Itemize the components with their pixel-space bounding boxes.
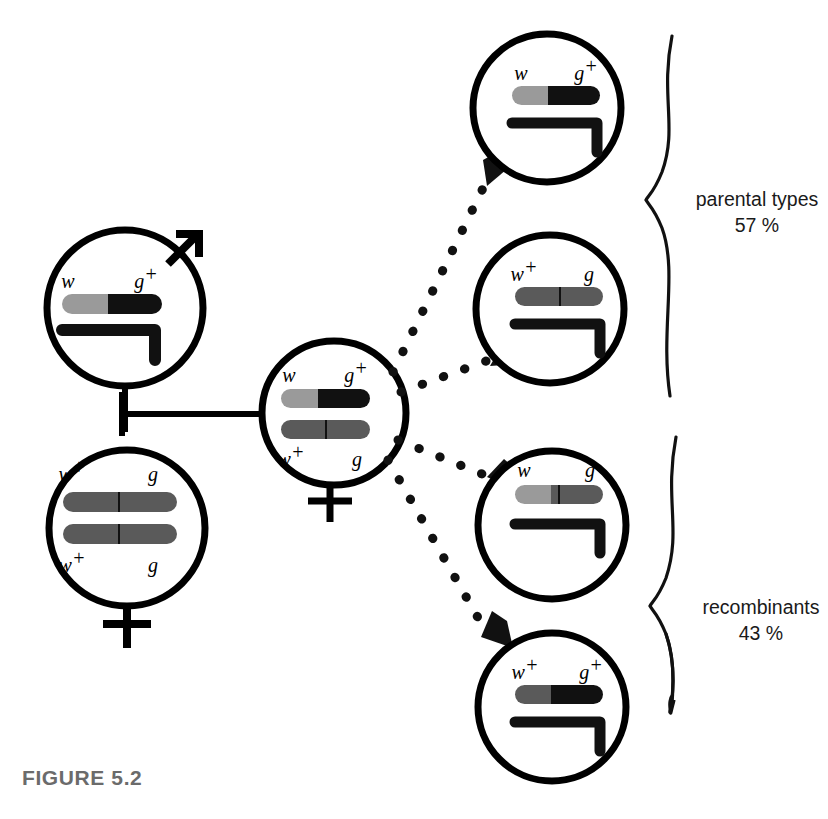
figure-canvas: w g+ w+ g	[0, 0, 828, 819]
chromosome-bar	[63, 492, 177, 512]
offspring-node-2[interactable]: w+ g	[476, 235, 624, 383]
allele-label: g	[584, 263, 594, 286]
chromosome-bar	[515, 287, 603, 306]
chromosome-bar	[515, 485, 603, 504]
parental-bracket-label: parental types	[696, 188, 819, 210]
offspring-circle	[476, 235, 624, 383]
allele-label: w	[61, 270, 75, 292]
genetics-cross-figure: w g+ w+ g	[0, 0, 828, 819]
recombinant-bracket	[650, 437, 676, 713]
offspring-node-4[interactable]: w+ g+	[478, 633, 626, 781]
chromosome-bar	[281, 420, 370, 439]
arrowhead-4	[481, 611, 513, 648]
offspring-node-1[interactable]: w g+	[473, 34, 621, 182]
allele-label: w	[517, 459, 531, 481]
chromosome-bar	[515, 685, 603, 704]
arrow-path-1	[393, 180, 487, 372]
parent-male-node[interactable]: w g+	[47, 230, 203, 386]
allele-label: g	[352, 448, 362, 471]
female-symbol-icon	[103, 604, 151, 648]
allele-label: w	[282, 364, 296, 386]
pedigree-cross-lines	[122, 388, 272, 436]
figure-caption: FIGURE 5.2	[22, 766, 142, 789]
arrow-path-2	[401, 356, 500, 392]
chromosome-bar	[63, 524, 177, 544]
chromosome-bar	[281, 389, 370, 408]
parental-bracket	[646, 36, 672, 396]
arrow-path-4	[388, 460, 485, 630]
female-symbol-icon	[308, 484, 352, 522]
parental-bracket-percent: 57 %	[735, 214, 779, 236]
recombinant-bracket-percent: 43 %	[739, 622, 783, 644]
arrow-path-3	[398, 440, 497, 480]
allele-label: g	[148, 463, 158, 486]
allele-label: w	[514, 62, 528, 84]
offspring-node-3[interactable]: w g	[478, 451, 626, 599]
parent-female-node[interactable]: w+ g w+ g	[49, 450, 205, 648]
chromosome-bar	[512, 86, 600, 105]
chromosome-bar	[62, 294, 162, 314]
f1-female-node[interactable]: w g+ w+ g	[262, 341, 406, 522]
offspring-circle	[473, 34, 621, 182]
recombinant-bracket-label: recombinants	[702, 596, 819, 618]
allele-label: g	[148, 554, 158, 577]
allele-label: g	[585, 459, 595, 482]
offspring-circle	[478, 633, 626, 781]
